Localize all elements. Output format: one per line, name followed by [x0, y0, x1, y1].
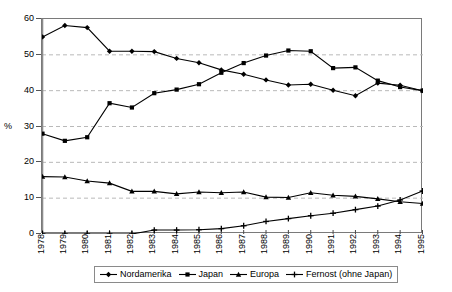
x-tick-label: 1985	[193, 234, 202, 254]
y-tick-label: 0	[29, 229, 34, 238]
series-line-2	[43, 177, 423, 204]
data-point-marker	[242, 61, 246, 65]
data-point-marker	[263, 219, 269, 225]
data-point-marker	[292, 272, 298, 278]
data-point-marker	[152, 91, 156, 95]
data-point-marker	[241, 71, 246, 76]
data-point-marker	[62, 23, 67, 28]
data-point-marker	[174, 227, 180, 233]
x-tick-label: 1978	[37, 234, 46, 254]
data-point-marker	[263, 77, 268, 82]
legend-label: Fernost (ohne Japan)	[306, 270, 392, 279]
data-point-marker	[63, 139, 67, 143]
data-point-marker	[330, 88, 335, 93]
x-tick-label: 1986	[215, 234, 224, 254]
x-tick-label: 1989	[282, 234, 291, 254]
data-point-marker	[151, 227, 157, 233]
legend-item-nordamerika[interactable]: Nordamerika	[100, 270, 172, 279]
y-tick-label: 40	[24, 85, 34, 94]
x-tick-label: 1995	[417, 234, 426, 254]
legend-label: Europa	[250, 270, 279, 279]
series-line-0	[43, 25, 423, 95]
x-tick-label: 1994	[394, 234, 403, 254]
data-point-marker	[42, 34, 45, 39]
data-point-marker	[353, 93, 358, 98]
y-tick-label: 10	[24, 193, 34, 202]
legend-marker-icon	[100, 270, 117, 279]
x-tick-label: 1990	[305, 234, 314, 254]
data-point-marker	[376, 79, 380, 83]
data-point-marker	[106, 272, 111, 277]
data-point-marker	[264, 53, 268, 57]
data-point-marker	[420, 188, 423, 194]
data-point-marker	[175, 87, 179, 91]
chart-legend: NordamerikaJapanEuropaFernost (ohne Japa…	[94, 266, 398, 283]
data-point-marker	[218, 226, 224, 232]
legend-label: Nordamerika	[120, 270, 172, 279]
x-axis: 1978197919801981198219831984198519861987…	[41, 234, 422, 270]
data-point-marker	[286, 48, 290, 52]
data-point-marker	[107, 101, 111, 105]
plot-area	[41, 18, 422, 233]
data-point-marker	[353, 207, 359, 213]
data-point-marker	[398, 85, 402, 89]
x-tick-label: 1980	[81, 234, 90, 254]
y-axis-title: %	[4, 121, 12, 130]
series-line-1	[43, 51, 423, 141]
legend-item-fernost-ohne-japan[interactable]: Fernost (ohne Japan)	[286, 270, 392, 279]
legend-item-europa[interactable]: Europa	[230, 270, 279, 279]
data-point-marker	[152, 49, 157, 54]
data-point-marker	[42, 132, 45, 136]
data-point-marker	[309, 49, 313, 53]
data-point-marker	[130, 105, 134, 109]
y-tick-label: 30	[24, 121, 34, 130]
legend-marker-icon	[230, 270, 247, 279]
data-point-marker	[174, 56, 179, 61]
x-tick-label: 1993	[372, 234, 381, 254]
data-point-marker	[241, 223, 247, 229]
x-tick-label: 1992	[349, 234, 358, 254]
data-point-marker	[129, 49, 134, 54]
data-point-marker	[196, 60, 201, 65]
x-tick-label: 1991	[327, 234, 336, 254]
data-point-marker	[308, 82, 313, 87]
legend-label: Japan	[199, 270, 224, 279]
legend-marker-icon	[286, 270, 303, 279]
data-point-marker	[420, 89, 423, 93]
data-point-marker	[375, 203, 381, 209]
data-point-marker	[219, 71, 223, 75]
data-point-marker	[185, 272, 189, 276]
x-tick-label: 1984	[171, 234, 180, 254]
legend-marker-icon	[179, 270, 196, 279]
data-point-marker	[286, 82, 291, 87]
y-tick-label: 20	[24, 157, 34, 166]
legend-item-japan[interactable]: Japan	[179, 270, 224, 279]
chart-container: 0102030405060% 1978197919801981198219831…	[0, 0, 452, 292]
data-point-marker	[330, 210, 336, 216]
y-tick-label: 50	[24, 49, 34, 58]
y-tick-label: 60	[24, 14, 34, 23]
data-point-marker	[331, 66, 335, 70]
x-tick-label: 1982	[126, 234, 135, 254]
data-point-marker	[85, 135, 89, 139]
data-point-marker	[285, 216, 291, 222]
x-tick-label: 1983	[148, 234, 157, 254]
data-point-marker	[197, 82, 201, 86]
data-point-marker	[308, 213, 314, 219]
data-point-marker	[353, 65, 357, 69]
x-tick-label: 1988	[260, 234, 269, 254]
x-tick-label: 1987	[238, 234, 247, 254]
y-axis: 0102030405060%	[0, 0, 41, 252]
x-tick-label: 1979	[59, 234, 68, 254]
data-point-marker	[196, 227, 202, 233]
x-tick-label: 1981	[104, 234, 113, 254]
plot-svg	[42, 19, 423, 234]
